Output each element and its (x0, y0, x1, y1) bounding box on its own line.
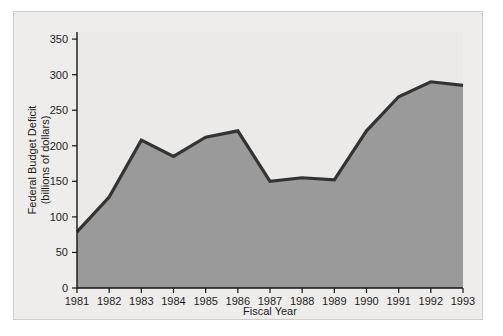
x-axis-title-group: Fiscal Year (243, 305, 297, 317)
y-tick-label: 200 (50, 140, 68, 152)
y-tick-label: 150 (50, 175, 68, 187)
y-tick-labels-group: 050100150200250300350 (50, 33, 68, 294)
y-axis-title-line1: Federal Budget Deficit (26, 106, 38, 215)
y-tick-label: 350 (50, 33, 68, 45)
x-axis-title: Fiscal Year (243, 305, 297, 317)
y-axis-title-group: Federal Budget Deficit (billions of doll… (26, 106, 51, 215)
x-tick-label: 1983 (129, 295, 153, 307)
x-axis-ticks-group (77, 288, 463, 293)
x-tick-label: 1985 (193, 295, 217, 307)
x-tick-label: 1993 (451, 295, 475, 307)
x-tick-label: 1990 (354, 295, 378, 307)
y-axis-title-line2: (billions of dollars) (39, 116, 51, 205)
y-tick-label: 300 (50, 69, 68, 81)
y-tick-label: 250 (50, 104, 68, 116)
x-tick-label: 1984 (161, 295, 185, 307)
y-tick-label: 0 (62, 282, 68, 294)
y-axis-ticks-group (72, 39, 77, 288)
x-tick-label: 1992 (419, 295, 443, 307)
x-tick-label: 1991 (386, 295, 410, 307)
y-tick-label: 100 (50, 211, 68, 223)
x-tick-label: 1982 (97, 295, 121, 307)
chart-figure: 050100150200250300350 198119821983198419… (0, 0, 503, 336)
y-tick-label: 50 (56, 246, 68, 258)
budget-deficit-area-chart: 050100150200250300350 198119821983198419… (0, 0, 503, 336)
x-tick-label: 1989 (322, 295, 346, 307)
x-tick-label: 1981 (65, 295, 89, 307)
